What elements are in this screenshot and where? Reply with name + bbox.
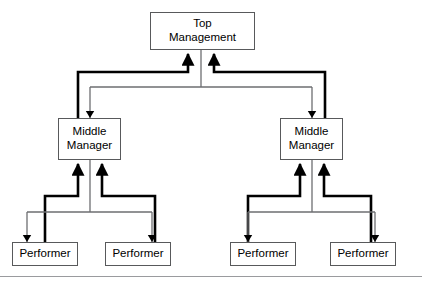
connector-performer4-to-middle-right <box>324 164 371 242</box>
connector-left-middle-to-top <box>78 54 188 118</box>
node-performer-4[interactable]: Performer <box>330 242 396 266</box>
connector-right-middle-to-top <box>214 54 325 118</box>
node-middle-manager-left-label: Middle Manager <box>65 125 114 152</box>
connector-performer2-to-middle-left <box>102 164 155 242</box>
node-middle-manager-left[interactable]: Middle Manager <box>58 118 121 160</box>
footer-divider <box>0 276 422 277</box>
node-top-management-label: Top Management <box>167 17 238 44</box>
connector-top-to-middles <box>90 50 312 118</box>
node-performer-4-label: Performer <box>335 247 390 261</box>
node-middle-manager-right-label: Middle Manager <box>287 125 336 152</box>
diagram-canvas: Top Management Middle Manager Middle Man… <box>0 0 422 286</box>
node-performer-2[interactable]: Performer <box>105 242 171 266</box>
connector-middle-right-to-performers <box>248 160 375 242</box>
connector-performer1-to-middle-left <box>45 164 78 242</box>
node-performer-2-label: Performer <box>110 247 165 261</box>
node-middle-manager-right[interactable]: Middle Manager <box>280 118 343 160</box>
node-performer-3[interactable]: Performer <box>230 242 296 266</box>
connector-performer3-to-middle-right <box>248 164 300 242</box>
node-performer-1-label: Performer <box>17 247 72 261</box>
node-performer-3-label: Performer <box>235 247 290 261</box>
node-top-management[interactable]: Top Management <box>150 12 255 50</box>
node-performer-1[interactable]: Performer <box>12 242 78 266</box>
